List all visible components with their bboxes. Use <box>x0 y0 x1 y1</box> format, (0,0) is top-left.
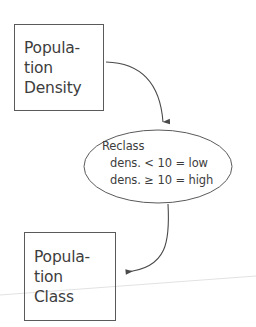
node-population-density-line-1: Popula- <box>24 38 103 58</box>
edge-process-to-output <box>126 204 169 272</box>
node-population-density[interactable]: Popula- tion Density <box>14 24 104 111</box>
process-node-label[interactable]: Reclass dens. < 10 = low dens. ≥ 10 = hi… <box>102 138 226 189</box>
node-population-class-line-1: Popula- <box>34 247 115 267</box>
diagram-canvas: Popula- tion Density Reclass dens. < 10 … <box>0 0 256 327</box>
node-population-density-line-2: tion <box>24 58 103 78</box>
node-population-class-line-2: tion <box>34 267 115 287</box>
process-node-rule-low: dens. < 10 = low <box>102 155 226 172</box>
process-node-rule-high: dens. ≥ 10 = high <box>102 172 226 189</box>
edge-input-to-process <box>106 62 163 122</box>
node-population-density-line-3: Density <box>24 78 103 98</box>
node-population-class-line-3: Class <box>34 287 115 307</box>
process-node-heading: Reclass <box>102 138 226 155</box>
node-population-class[interactable]: Popula- tion Class <box>24 232 116 321</box>
